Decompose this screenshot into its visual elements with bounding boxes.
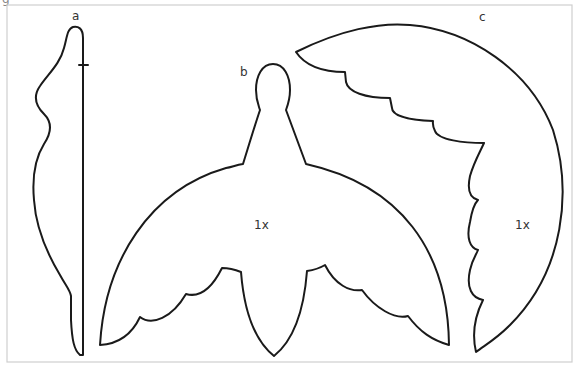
piece-b-scale-label: 1x <box>254 218 269 232</box>
frame-border <box>7 5 572 362</box>
piece-c: c 1x <box>296 10 563 352</box>
piece-c-scale-label: 1x <box>515 218 530 232</box>
piece-b-label: b <box>240 65 248 79</box>
piece-a-outline <box>33 27 83 355</box>
piece-b: b 1x <box>100 64 449 356</box>
piece-a: a <box>33 9 88 355</box>
piece-c-label: c <box>479 10 486 24</box>
pattern-sheet: a b 1x c 1x <box>0 0 576 369</box>
piece-b-outline <box>100 64 449 356</box>
piece-a-label: a <box>72 9 79 23</box>
piece-c-outline <box>296 24 563 352</box>
